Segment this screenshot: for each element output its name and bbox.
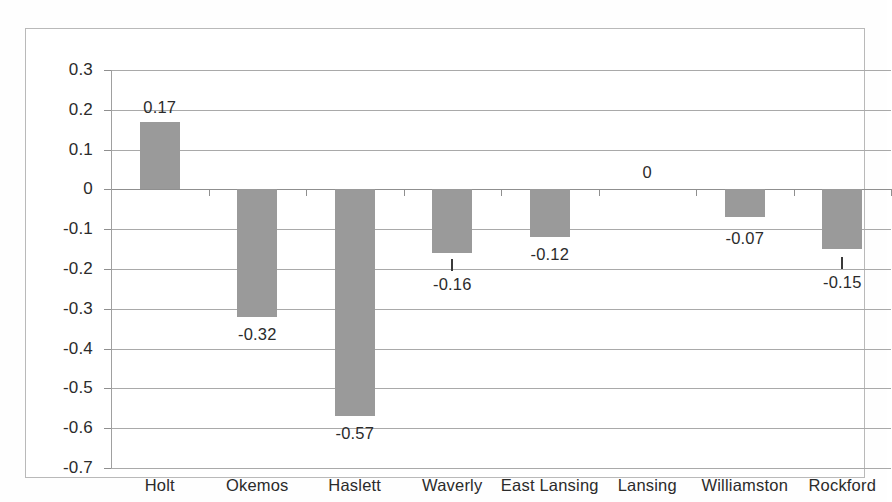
y-tick-mark	[104, 309, 111, 310]
x-axis-category-label: East Lansing	[501, 476, 599, 495]
y-axis-tick-label: -0.4	[26, 339, 93, 359]
y-axis-tick-label: 0.2	[26, 100, 93, 120]
y-tick-mark	[104, 269, 111, 270]
x-axis-category-label: Waverly	[422, 476, 482, 495]
x-tick-mark	[696, 189, 697, 196]
x-axis-category-label: Haslett	[328, 476, 381, 495]
x-tick-mark	[501, 189, 502, 196]
y-axis-tick-label: -0.1	[26, 219, 93, 239]
x-tick-mark	[306, 189, 307, 196]
bar[interactable]	[822, 189, 862, 249]
bar-value-label: -0.57	[335, 424, 374, 443]
y-axis-tick-label: 0.3	[26, 60, 93, 80]
y-axis-tick-label: -0.3	[26, 299, 93, 319]
y-axis-tick-label: -0.7	[26, 458, 93, 478]
gridline	[111, 468, 891, 469]
plot-area: 0.17-0.32-0.57-0.16-0.120-0.07-0.15	[111, 70, 891, 468]
y-tick-mark	[104, 349, 111, 350]
bar-value-label: -0.15	[823, 273, 862, 292]
bar[interactable]	[432, 189, 472, 253]
y-tick-mark	[104, 468, 111, 469]
x-axis-category-label: Williamston	[701, 476, 788, 495]
y-axis-tick-label: 0.1	[26, 140, 93, 160]
bar-value-label: -0.32	[238, 325, 277, 344]
y-axis-tick-label: -0.2	[26, 259, 93, 279]
chart-frame: 0.30.20.10-0.1-0.2-0.3-0.4-0.5-0.6-0.7 0…	[25, 28, 865, 478]
x-tick-mark	[599, 189, 600, 196]
y-axis-tick-label: -0.5	[26, 378, 93, 398]
y-tick-mark	[104, 388, 111, 389]
y-axis-tick-label: -0.6	[26, 418, 93, 438]
bar-value-label: -0.16	[433, 275, 472, 294]
y-tick-mark	[104, 229, 111, 230]
bar-value-label: -0.07	[725, 229, 764, 248]
x-tick-mark	[794, 189, 795, 196]
bar[interactable]	[237, 189, 277, 316]
x-axis-category-label: Rockford	[808, 476, 876, 495]
y-tick-mark	[104, 110, 111, 111]
x-axis-category-label: Lansing	[618, 476, 677, 495]
y-axis-tick-label: 0	[26, 179, 93, 199]
bar[interactable]	[530, 189, 570, 237]
x-axis-category-label: Holt	[145, 476, 175, 495]
value-leader-line	[451, 259, 453, 271]
bar[interactable]	[335, 189, 375, 416]
y-tick-mark	[104, 70, 111, 71]
bar[interactable]	[140, 122, 180, 190]
value-leader-line	[841, 257, 843, 269]
bar-value-label: 0	[643, 163, 652, 182]
bar[interactable]	[725, 189, 765, 217]
category-axis: HoltOkemosHaslettWaverlyEast LansingLans…	[111, 476, 891, 502]
y-tick-mark	[104, 189, 111, 190]
y-tick-mark	[104, 428, 111, 429]
y-tick-mark	[104, 150, 111, 151]
x-axis-category-label: Okemos	[226, 476, 289, 495]
bar-value-label: 0.17	[143, 98, 176, 117]
bar-value-label: -0.12	[530, 245, 569, 264]
x-tick-mark	[404, 189, 405, 196]
x-tick-mark	[209, 189, 210, 196]
